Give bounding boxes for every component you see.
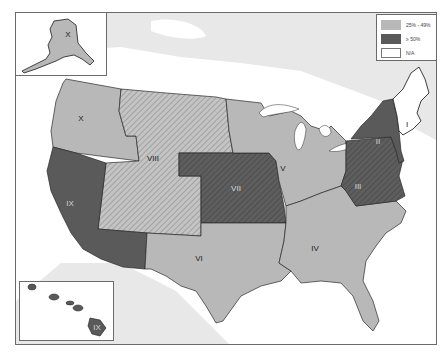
molokai-island: [66, 301, 74, 305]
region-label-ii: II: [376, 137, 380, 146]
legend-item-50-plus: ≥ 50%: [381, 32, 432, 45]
legend-swatch-na: [381, 48, 401, 58]
legend-label-25-49: 25% - 49%: [406, 22, 430, 28]
hawaii-label: IX: [93, 323, 101, 332]
alaska-inset: X: [15, 12, 107, 76]
legend: 25% - 49% ≥ 50% N/A: [376, 14, 437, 61]
legend-label-50-plus: ≥ 50%: [406, 36, 420, 42]
region-label-iv: IV: [311, 244, 319, 253]
legend-item-25-49: 25% - 49%: [381, 18, 432, 31]
map-frame: X VIII IX VII V VI IV III II I X IX: [15, 12, 437, 345]
region-label-vi: VI: [195, 254, 203, 263]
alaska-map: X: [16, 13, 107, 76]
legend-swatch-25-49: [381, 20, 401, 30]
region-label-x: X: [78, 114, 84, 123]
maui-island: [73, 305, 83, 311]
region-label-i: I: [406, 120, 408, 129]
alaska-label: X: [65, 30, 71, 39]
region-label-viii: VIII: [147, 154, 159, 163]
oahu-island: [49, 294, 59, 300]
kauai-island: [28, 284, 36, 290]
legend-label-na: N/A: [406, 50, 414, 56]
legend-item-na: N/A: [381, 46, 432, 59]
hawaii-inset: IX: [19, 281, 114, 341]
region-label-vii: VII: [231, 184, 241, 193]
region-label-ix: IX: [66, 199, 74, 208]
legend-swatch-50-plus: [381, 34, 401, 44]
hawaii-map: IX: [20, 282, 114, 341]
region-label-v: V: [280, 164, 286, 173]
region-label-iii: III: [355, 182, 362, 191]
